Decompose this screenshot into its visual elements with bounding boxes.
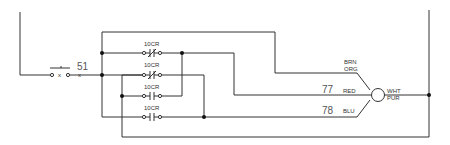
- contact-row-1: 10CR: [102, 41, 182, 57]
- junction-dot: [427, 93, 431, 97]
- contact-label: 10CR: [144, 62, 160, 68]
- out-wht-label: WHT: [387, 88, 401, 94]
- contact-label: 10CR: [144, 41, 160, 47]
- svg-text:x: x: [78, 72, 81, 78]
- contact-row-4: 10CR: [102, 105, 204, 121]
- lead-red-label: RED: [343, 88, 356, 94]
- junction-dot: [120, 94, 124, 98]
- switch-51: x x 51: [50, 61, 102, 78]
- contact-label: 10CR: [144, 105, 160, 111]
- left-supply-wire: [20, 12, 50, 75]
- svg-text:x: x: [58, 72, 61, 78]
- wire-78-label: 78: [322, 105, 334, 116]
- schematic-canvas: x x 51 10CR 10CR: [0, 0, 450, 145]
- contact-label: 10CR: [144, 84, 160, 90]
- contact-row-3: 10CR: [122, 53, 182, 100]
- lead-blu-label: BLU: [343, 108, 355, 114]
- wire-77-label: 77: [322, 84, 334, 95]
- junction-dot: [100, 51, 104, 55]
- switch-label: 51: [77, 61, 89, 72]
- junction-dot: [202, 115, 206, 119]
- out-pur-label: PUR: [387, 95, 400, 101]
- junction-dot: [100, 73, 104, 77]
- junction-dot: [180, 51, 184, 55]
- lead-org-label: ORG: [344, 66, 358, 72]
- secondary-bus: [122, 75, 429, 137]
- lead-brn-label: BRN: [344, 59, 357, 65]
- brn-org-wire: [102, 32, 370, 90]
- motor-symbol: [372, 89, 385, 102]
